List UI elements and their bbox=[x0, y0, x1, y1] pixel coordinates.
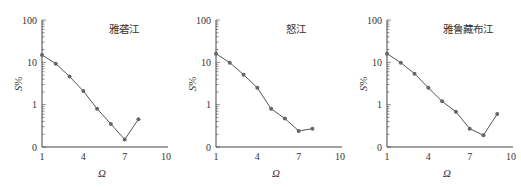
y-tick-label: 1 bbox=[206, 99, 211, 110]
data-point bbox=[399, 61, 403, 65]
panel-title: 雅砻江 bbox=[109, 23, 140, 35]
data-line bbox=[387, 54, 497, 136]
x-tick-label: 4 bbox=[426, 151, 431, 162]
x-tick-label: 1 bbox=[214, 151, 219, 162]
data-point bbox=[68, 75, 72, 79]
y-tick-label: 0 bbox=[377, 142, 382, 153]
x-tick-label: 7 bbox=[122, 151, 127, 162]
data-point bbox=[426, 86, 430, 90]
data-point bbox=[468, 127, 472, 131]
chart-panel-1: 011010014710ΩS%雅砻江 bbox=[12, 15, 171, 180]
x-tick-label: 7 bbox=[296, 151, 301, 162]
x-tick-label: 10 bbox=[335, 151, 345, 162]
y-axis-title: S% bbox=[186, 77, 198, 92]
data-point bbox=[95, 107, 99, 111]
data-point bbox=[385, 52, 389, 56]
y-tick-label: 100 bbox=[367, 15, 382, 26]
x-tick-label: 10 bbox=[506, 151, 516, 162]
data-point bbox=[269, 107, 273, 111]
chart-panel-3: 011010014710ΩS%雅鲁藏布江 bbox=[357, 15, 516, 180]
x-tick-label: 7 bbox=[467, 151, 472, 162]
data-point bbox=[495, 112, 499, 116]
data-point bbox=[283, 117, 287, 121]
x-tick-label: 1 bbox=[40, 151, 45, 162]
y-tick-label: 10 bbox=[372, 57, 382, 68]
data-point bbox=[123, 138, 127, 142]
panel-title: 雅鲁藏布江 bbox=[443, 23, 494, 35]
x-axis-title: Ω bbox=[443, 167, 451, 179]
data-point bbox=[228, 61, 232, 65]
data-point bbox=[214, 52, 218, 56]
y-tick-label: 100 bbox=[196, 15, 211, 26]
data-point bbox=[81, 89, 85, 93]
x-tick-label: 1 bbox=[385, 151, 390, 162]
y-tick-label: 1 bbox=[377, 99, 382, 110]
data-point bbox=[242, 73, 246, 77]
data-point bbox=[481, 133, 485, 137]
panel-title: 怒江 bbox=[286, 23, 307, 35]
data-point bbox=[255, 86, 259, 90]
data-point bbox=[440, 99, 444, 103]
data-point bbox=[109, 122, 113, 126]
data-point bbox=[54, 62, 58, 66]
x-tick-label: 4 bbox=[255, 151, 260, 162]
data-point bbox=[136, 117, 140, 121]
data-point bbox=[40, 53, 44, 57]
y-tick-label: 0 bbox=[206, 142, 211, 153]
x-axis-title: Ω bbox=[98, 167, 106, 179]
x-axis-title: Ω bbox=[272, 167, 280, 179]
y-axis-title: S% bbox=[12, 77, 24, 92]
chart-figure: 011010014710ΩS%雅砻江011010014710ΩS%怒江01101… bbox=[0, 0, 521, 187]
x-tick-label: 4 bbox=[81, 151, 86, 162]
data-point bbox=[297, 129, 301, 133]
data-point bbox=[454, 110, 458, 114]
y-tick-label: 10 bbox=[201, 57, 211, 68]
chart-panel-2: 011010014710ΩS%怒江 bbox=[186, 15, 345, 180]
x-tick-label: 10 bbox=[161, 151, 171, 162]
y-tick-label: 0 bbox=[32, 142, 37, 153]
y-tick-label: 100 bbox=[22, 15, 37, 26]
data-point bbox=[310, 127, 314, 131]
y-tick-label: 1 bbox=[32, 99, 37, 110]
data-line bbox=[42, 55, 138, 140]
y-axis-title: S% bbox=[357, 77, 369, 92]
y-tick-label: 10 bbox=[27, 57, 37, 68]
data-line bbox=[216, 54, 312, 131]
data-point bbox=[413, 72, 417, 76]
